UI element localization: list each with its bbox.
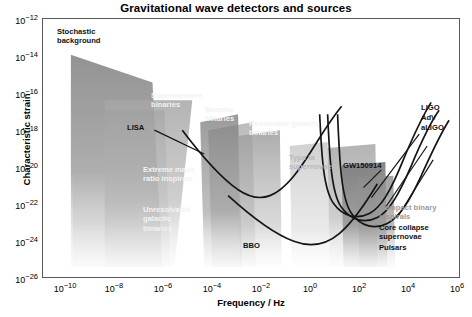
annotation-gw150914: GW150914 [343,161,381,170]
figure: Gravitational wave detectors and sources… [0,0,472,317]
annotation-resolvable-galactic-binaries: Resolvable galactic binaries [249,119,320,138]
x-tick-label: 100 [288,281,332,294]
annotation-supermassive-binaries: Supermassive binaries [151,91,203,110]
plot-area: Stochastic background Supermassive binar… [42,18,460,278]
y-tick-label: 10−18 [0,124,38,137]
y-tick-label: 10−26 [0,272,38,285]
annotation-aligo: aLIGO [421,123,444,132]
x-tick-label: 104 [386,281,430,294]
annotation-compact-binary-inspirals: Compact binary inspirals [379,203,436,222]
y-tick-label: 10−12 [0,13,38,26]
annotation-lisa: LISA [127,123,144,132]
annotation-adv: AdV [421,113,436,122]
annotation-core-collapse-supernovae: Core collapse supernovae [379,223,429,242]
annotation-unresolvable-galactic-binaries: Unresolvable galactic binaries [143,205,191,233]
y-tick-label: 10−24 [0,235,38,248]
leader-gw150914 [363,170,381,188]
x-tick-label: 102 [337,281,381,294]
x-tick-label: 10−4 [190,281,234,294]
annotation-massive-binaries: Massive binaries [205,105,235,124]
annotation-stochastic-background: Stochastic background [57,27,100,46]
y-tick-label: 10−14 [0,50,38,63]
annotation-type-ia-supernovae: Type Ia supernovae [289,153,332,172]
chart-title: Gravitational wave detectors and sources [0,2,472,14]
x-tick-label: 106 [435,281,472,294]
y-tick-label: 10−20 [0,161,38,174]
x-tick-label: 10−6 [141,281,185,294]
leader-lisa [154,130,204,154]
annotation-pulsars: Pulsars [379,243,406,252]
annotation-extreme-mass-ratio-inspirals: Extreme mass ratio inspirals [143,165,195,184]
y-tick-label: 10−22 [0,198,38,211]
x-axis-label: Frequency / Hz [42,297,460,308]
leader-adv [385,146,427,208]
x-tick-label: 10−10 [43,281,87,294]
y-tick-label: 10−16 [0,87,38,100]
x-tick-label: 10−2 [239,281,283,294]
annotation-ligo: LIGO [421,103,440,112]
annotation-bbo: BBO [243,241,260,250]
x-tick-label: 10−8 [92,281,136,294]
